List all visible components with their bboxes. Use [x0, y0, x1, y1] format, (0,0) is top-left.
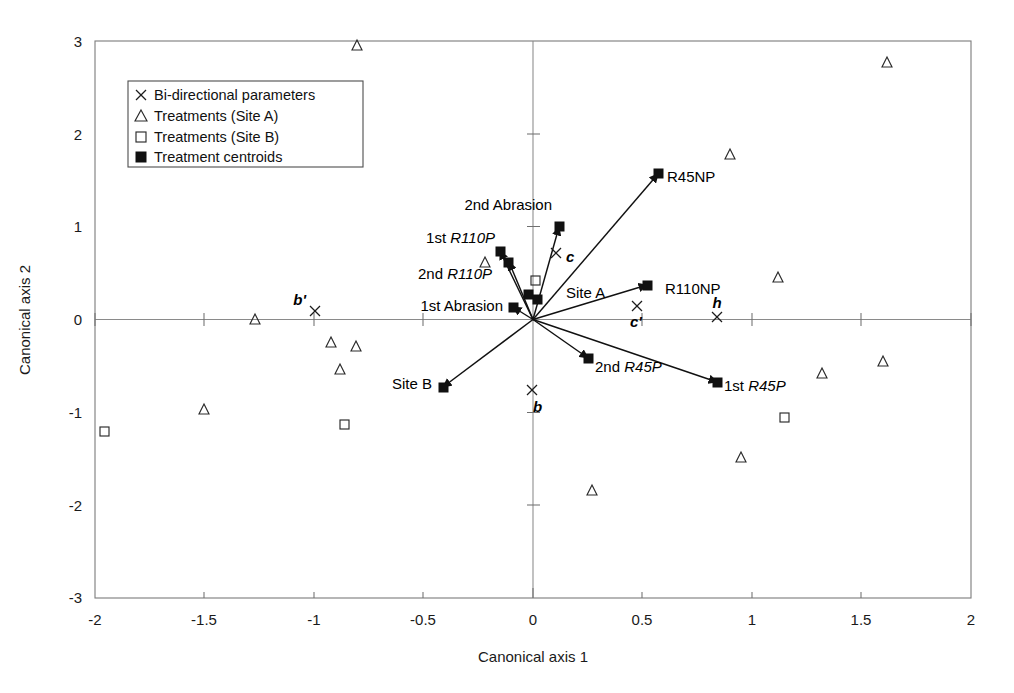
data-point-triangle — [351, 341, 361, 351]
data-point-centroid — [524, 290, 533, 299]
data-point-square — [531, 276, 540, 285]
x-cross-icon — [551, 248, 561, 258]
annotation-b-prime: b' — [293, 291, 306, 308]
x-cross-icon — [310, 306, 320, 316]
data-point-centroid — [584, 354, 593, 363]
label-site-b: Site B — [392, 375, 432, 392]
data-point-triangle — [773, 272, 783, 282]
data-point-centroid — [533, 295, 542, 304]
data-point-triangle — [882, 57, 892, 67]
label-1st-r110p: 1st R110P — [426, 229, 495, 246]
x-tick-label: 0 — [529, 611, 537, 628]
data-point-square — [340, 420, 349, 429]
y-tick-label: 1 — [74, 218, 82, 235]
annotation-b: b — [533, 398, 542, 415]
y-tick-label: 3 — [74, 33, 82, 50]
data-point-triangle — [587, 485, 597, 495]
data-point-triangle — [199, 404, 209, 414]
canonical-biplot-svg: -2 -1.5 -1 -0.5 0 0.5 1 1.5 2 3 2 1 0 -1… — [0, 0, 1014, 693]
annotation-h: h — [712, 294, 721, 311]
chart-figure: -2 -1.5 -1 -0.5 0 0.5 1 1.5 2 3 2 1 0 -1… — [0, 0, 1014, 693]
x-axis-title: Canonical axis 1 — [478, 648, 588, 665]
vector-site-b — [443, 320, 533, 388]
data-point-centroid — [504, 258, 513, 267]
data-point-triangle — [878, 356, 888, 366]
data-point-centroid — [654, 169, 663, 178]
y-tick-label: -1 — [69, 404, 82, 421]
annotation-c: c — [566, 248, 575, 265]
chart-legend: Bi-directional parameters Treatments (Si… — [128, 81, 363, 167]
data-point-triangle — [326, 337, 336, 347]
legend-item-bi-directional-parameters[interactable]: Bi-directional parameters — [136, 87, 315, 103]
y-tick-labels: 3 2 1 0 -1 -2 -3 — [69, 33, 82, 606]
data-point-centroid — [496, 247, 505, 256]
x-tick-label: 1.5 — [851, 611, 872, 628]
y-axis-title: Canonical axis 2 — [16, 265, 33, 375]
annotation-c-prime: c' — [630, 313, 642, 330]
x-tick-label: -0.5 — [410, 611, 436, 628]
data-point-square — [780, 413, 789, 422]
x-tick-label: -2 — [88, 611, 101, 628]
legend-label: Treatments (Site B) — [154, 129, 279, 145]
label-2nd-r110p: 2nd R110P — [418, 265, 492, 282]
data-point-centroid — [555, 222, 564, 231]
data-point-triangle — [736, 452, 746, 462]
y-tick-label: -3 — [69, 589, 82, 606]
filled-square-icon — [136, 152, 146, 162]
x-tick-labels: -2 -1.5 -1 -0.5 0 0.5 1 1.5 2 — [88, 611, 975, 628]
vector-2nd-r45p — [533, 320, 588, 359]
x-tick-label: -1 — [307, 611, 320, 628]
legend-label: Treatment centroids — [154, 149, 282, 165]
x-axis-frame-ticks — [204, 588, 861, 598]
data-point-centroid — [439, 383, 448, 392]
legend-label: Treatments (Site A) — [154, 108, 278, 124]
x-tick-label: 0.5 — [632, 611, 653, 628]
legend-item-treatment-centroids[interactable]: Treatment centroids — [136, 149, 282, 165]
label-2nd-r45p: 2nd R45P — [595, 358, 662, 375]
data-point-centroid — [643, 281, 652, 290]
legend-item-treatments-site-a[interactable]: Treatments (Site A) — [135, 108, 278, 124]
vector-2nd-abrasion — [533, 227, 559, 320]
data-point-triangle — [817, 368, 827, 378]
data-point-centroid — [509, 303, 518, 312]
label-site-a: Site A — [566, 284, 605, 301]
legend-item-treatments-site-b[interactable]: Treatments (Site B) — [136, 129, 279, 145]
y-tick-label: 0 — [74, 311, 82, 328]
parameter-annotations: c c' h b' b — [293, 248, 721, 415]
x-cross-icon — [712, 312, 722, 322]
x-tick-label: 2 — [967, 611, 975, 628]
x-tick-label: 1 — [748, 611, 756, 628]
label-2nd-abrasion: 2nd Abrasion — [464, 196, 552, 213]
y-tick-label: 2 — [74, 126, 82, 143]
x-cross-icon — [632, 301, 642, 311]
label-1st-r45p: 1st R45P — [724, 377, 786, 394]
data-point-centroid — [713, 378, 722, 387]
label-r45np: R45NP — [667, 168, 715, 185]
label-1st-abrasion: 1st Abrasion — [420, 297, 503, 314]
data-point-triangle — [335, 364, 345, 374]
x-tick-label: -1.5 — [191, 611, 217, 628]
data-point-triangle — [725, 149, 735, 159]
legend-label: Bi-directional parameters — [154, 87, 315, 103]
data-point-square — [100, 427, 109, 436]
x-cross-icon — [527, 385, 537, 395]
y-tick-label: -2 — [69, 497, 82, 514]
